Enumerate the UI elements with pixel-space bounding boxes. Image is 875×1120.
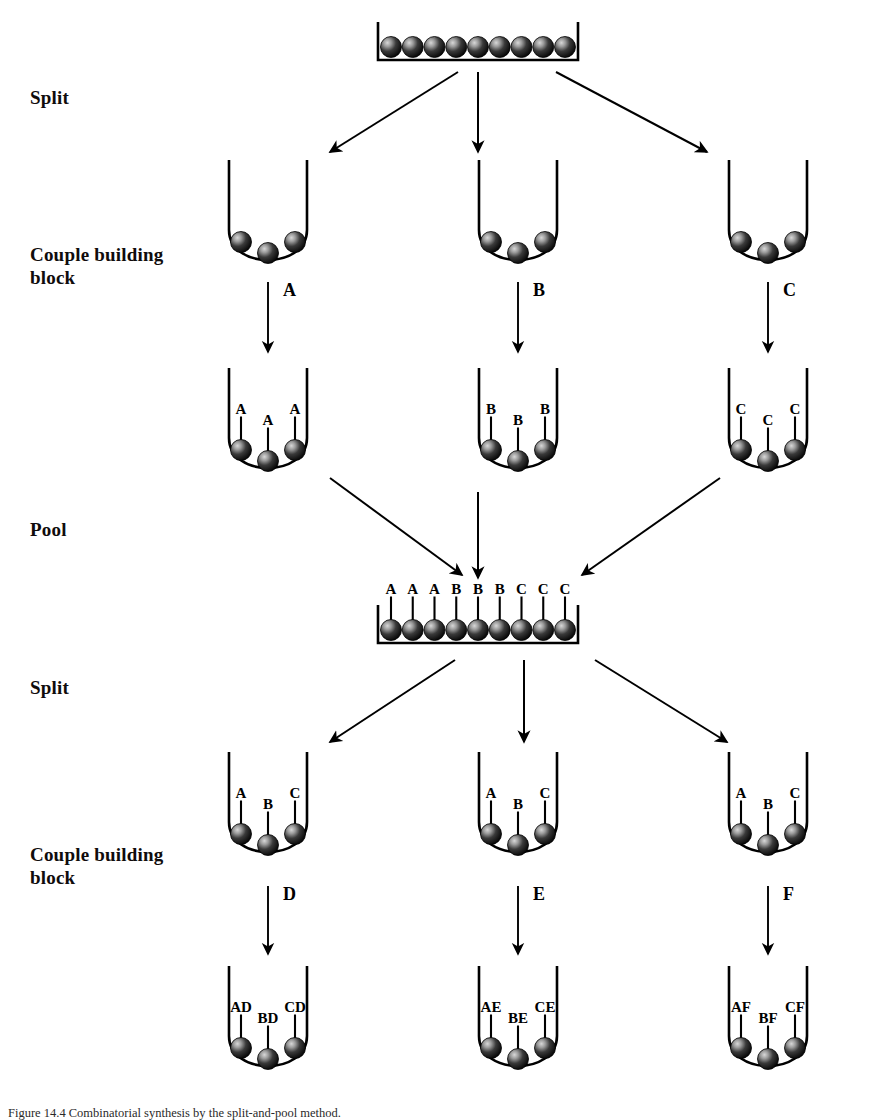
- bead-group: [285, 232, 306, 253]
- bead-label: A: [407, 581, 418, 597]
- bead-icon: [231, 440, 252, 461]
- flask-vessel: CCC: [729, 368, 807, 472]
- figure-caption: Figure 14.4 Combinatorial synthesis by t…: [8, 1106, 868, 1120]
- bead-label: AE: [481, 999, 502, 1015]
- step-label-split-2: Split: [30, 676, 69, 699]
- bead-label: C: [736, 401, 747, 417]
- bead-group: [489, 37, 510, 58]
- bead-icon: [285, 232, 306, 253]
- bead-icon: [731, 824, 752, 845]
- bead-icon: [446, 620, 467, 641]
- bead-icon: [758, 835, 779, 856]
- bead-icon: [285, 824, 306, 845]
- bead-group: [468, 37, 489, 58]
- bead-group: A: [481, 785, 502, 845]
- pooled-bead-tray: AAABBBCCC: [378, 581, 578, 644]
- row-couple2-vessels: ADBDCDAEBECEAFBFCF: [229, 966, 807, 1070]
- bead-group: A: [258, 412, 279, 472]
- flask-vessel: [479, 160, 557, 264]
- reagent-label: A: [283, 280, 296, 300]
- step-label-couple-1: Couple building block: [30, 243, 163, 289]
- bead-icon: [785, 824, 806, 845]
- bead-group: B: [508, 412, 529, 472]
- bead-label: A: [236, 401, 247, 417]
- bead-label: BE: [508, 1010, 528, 1026]
- flow-arrow: [595, 660, 727, 742]
- split-2-arrows: [330, 660, 727, 742]
- bead-icon: [731, 232, 752, 253]
- bead-icon: [285, 440, 306, 461]
- bead-icon: [258, 1049, 279, 1070]
- bead-icon: [258, 243, 279, 264]
- bead-icon: [758, 243, 779, 264]
- flow-arrow: [330, 660, 455, 742]
- coupling-arrow-group: E: [518, 884, 545, 954]
- bead-label: AD: [230, 999, 252, 1015]
- bead-icon: [511, 37, 532, 58]
- bead-icon: [508, 1049, 529, 1070]
- bead-label: C: [763, 412, 774, 428]
- bead-group: [758, 243, 779, 264]
- bead-icon: [785, 232, 806, 253]
- flask-vessel: ABC: [729, 752, 807, 856]
- bead-group: B: [489, 581, 510, 641]
- bead-label: A: [290, 401, 301, 417]
- bead-group: C: [731, 401, 752, 461]
- reagent-label: E: [533, 884, 545, 904]
- bead-label: A: [736, 785, 747, 801]
- bead-label: B: [486, 401, 496, 417]
- bead-group: CE: [535, 999, 556, 1059]
- bead-icon: [535, 232, 556, 253]
- bead-label: A: [486, 785, 497, 801]
- bead-label: AF: [731, 999, 751, 1015]
- bead-label: B: [763, 796, 773, 812]
- bead-label: C: [790, 401, 801, 417]
- bead-group: A: [424, 581, 445, 641]
- bead-group: C: [758, 412, 779, 472]
- bead-icon: [785, 440, 806, 461]
- bead-label: B: [451, 581, 461, 597]
- bead-group: [481, 232, 502, 253]
- bead-group: BD: [258, 1010, 279, 1070]
- bead-icon: [508, 835, 529, 856]
- bead-group: C: [785, 401, 806, 461]
- bead-icon: [446, 37, 467, 58]
- bead-icon: [468, 37, 489, 58]
- bead-label: C: [790, 785, 801, 801]
- starting-bead-tray: [378, 22, 578, 60]
- flow-arrow-layer: [330, 72, 727, 742]
- bead-label: A: [263, 412, 274, 428]
- bead-icon: [731, 440, 752, 461]
- bead-icon: [481, 824, 502, 845]
- flow-arrow: [582, 478, 720, 575]
- bead-group: [533, 37, 554, 58]
- bead-group: B: [508, 796, 529, 856]
- bead-icon: [535, 1038, 556, 1059]
- coupling-arrow-group: F: [768, 884, 794, 954]
- bead-group: CD: [284, 999, 306, 1059]
- bead-label: C: [538, 581, 549, 597]
- bead-group: AE: [481, 999, 502, 1059]
- bead-icon: [489, 620, 510, 641]
- bead-group: B: [468, 581, 489, 641]
- row-couple1-vessels: AAABBBCCC: [229, 368, 807, 472]
- bead-group: [508, 243, 529, 264]
- bead-group: B: [258, 796, 279, 856]
- bead-label: B: [513, 412, 523, 428]
- bead-label: C: [516, 581, 527, 597]
- bead-label: B: [263, 796, 273, 812]
- bead-icon: [481, 232, 502, 253]
- bead-icon: [402, 620, 423, 641]
- bead-label: B: [495, 581, 505, 597]
- bead-group: [381, 37, 402, 58]
- bead-icon: [731, 1038, 752, 1059]
- bead-icon: [258, 451, 279, 472]
- split-1-arrows: [330, 72, 707, 152]
- reagent-label: B: [533, 280, 545, 300]
- bead-icon: [508, 243, 529, 264]
- bead-group: A: [731, 785, 752, 845]
- bead-label: BF: [758, 1010, 777, 1026]
- bead-icon: [285, 1038, 306, 1059]
- bead-label: CE: [535, 999, 556, 1015]
